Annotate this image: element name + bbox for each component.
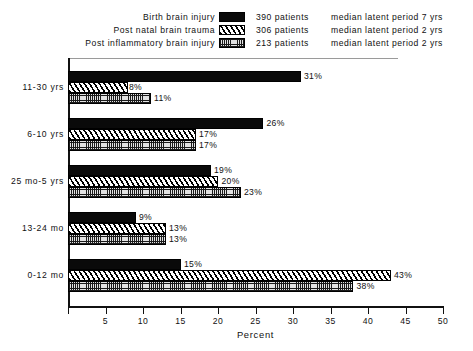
x-axis-tick-label: 20 [213,316,224,326]
legend-label: Post inflammatory brain injury [85,38,215,49]
bar-post-natal-brain-trauma [68,176,218,187]
x-axis-tick-label: 5 [103,316,108,326]
y-axis-category-label: 25 mo-5 yrs [11,176,64,186]
bar-value-label: 23% [244,187,262,198]
bar-group-11-30-yrs: 11-30 yrs 31% 8% 11% [68,71,443,105]
legend-label: Post natal brain trauma [114,25,216,36]
x-axis-tick-label: 25 [250,316,261,326]
solid-black-swatch [219,12,245,22]
chart-legend: Birth brain injury 390 patients median l… [0,12,473,52]
x-axis-tick-label: 35 [325,316,336,326]
x-axis-tick [181,308,182,314]
bar-post-natal-brain-trauma [68,82,128,93]
x-axis-tick [443,308,444,314]
bar-value-label: 20% [222,176,240,187]
x-axis-tick-label: 15 [175,316,186,326]
x-axis-tick-label: 10 [138,316,149,326]
bar-group-13-24-mo: 13-24 mo 9% 13% 13% [68,212,443,246]
bar-value-label: 19% [214,165,232,176]
x-axis-tick [256,308,257,314]
bar-value-label: 26% [267,118,285,129]
bar-value-label: 43% [394,270,412,281]
bar-post-natal-brain-trauma [68,129,196,140]
x-axis-tick [68,308,69,314]
legend-row: Birth brain injury 390 patients median l… [0,12,473,24]
legend-median-latent-period: median latent period 2 yrs [331,38,443,49]
legend-label: Birth brain injury [143,12,215,23]
legend-patient-count: 390 patients [256,12,309,23]
bar-group-6-10-yrs: 6-10 yrs 26% 17% 17% [68,118,443,152]
bar-post-inflammatory-brain-injury [68,140,196,151]
bar-birth-brain-injury [68,71,301,82]
bar-birth-brain-injury [68,165,211,176]
x-axis-title: Percent [68,329,443,340]
bar-value-label: 31% [304,71,322,82]
bar-post-inflammatory-brain-injury [68,93,151,104]
x-axis-tick [368,308,369,314]
x-axis-tick-label: 45 [400,316,411,326]
bar-chart-figure: Birth brain injury 390 patients median l… [0,0,473,351]
bar-value-label: 9% [139,212,152,223]
bar-value-label: 17% [199,140,217,151]
x-axis-tick [331,308,332,314]
legend-median-latent-period: median latent period 7 yrs [331,12,443,23]
bar-post-inflammatory-brain-injury [68,187,241,198]
x-axis-tick [293,308,294,314]
bar-post-inflammatory-brain-injury [68,234,166,245]
bar-value-label: 13% [169,223,187,234]
bar-value-label: 38% [357,281,375,292]
bar-birth-brain-injury [68,259,181,270]
bar-post-natal-brain-trauma [68,223,166,234]
x-axis-tick [106,308,107,314]
bar-post-inflammatory-brain-injury [68,281,353,292]
y-axis-category-label: 13-24 mo [22,223,64,233]
bar-value-label: 11% [154,93,171,104]
plot-area: 5 10 15 20 25 30 35 40 45 50 Percent 11-… [68,58,443,306]
y-axis-category-label: 11-30 yrs [23,82,64,92]
bar-value-label: 15% [184,259,202,270]
x-axis-tick-label: 40 [363,316,374,326]
bar-birth-brain-injury [68,212,136,223]
y-axis-category-label: 6-10 yrs [27,129,64,139]
x-axis-tick [143,308,144,314]
x-axis-tick-label: 50 [438,316,449,326]
bar-value-label: 13% [169,234,187,245]
legend-median-latent-period: median latent period 2 yrs [331,25,443,36]
x-axis-tick [218,308,219,314]
bar-group-25mo-5yrs: 25 mo-5 yrs 19% 20% 23% [68,165,443,199]
x-axis-tick-label: 30 [288,316,299,326]
diagonal-hatch-swatch [219,25,245,35]
plot-top-border [68,58,398,59]
bar-post-natal-brain-trauma [68,270,391,281]
legend-row: Post natal brain trauma 306 patients med… [0,25,473,37]
bar-birth-brain-injury [68,118,263,129]
x-axis-tick [406,308,407,314]
bar-group-0-12-mo: 0-12 mo 15% 43% 38% [68,259,443,293]
bar-value-label: 17% [199,129,217,140]
legend-patient-count: 306 patients [256,25,309,36]
dotted-swatch [219,38,245,48]
legend-row: Post inflammatory brain injury 213 patie… [0,38,473,50]
y-axis-category-label: 0-12 mo [28,270,64,280]
legend-patient-count: 213 patients [256,38,309,49]
bar-value-label: 8% [129,82,142,93]
